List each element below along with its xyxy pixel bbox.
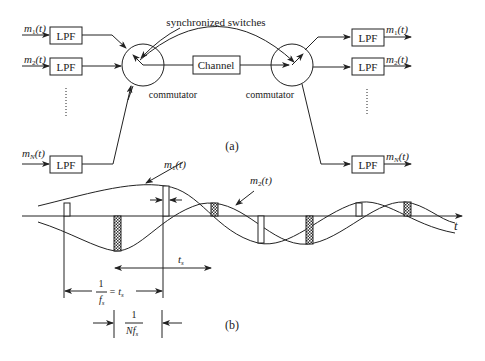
sample-m1-1 — [64, 203, 70, 216]
period-equals: = ts — [109, 286, 124, 299]
sample-m2-4 — [404, 202, 411, 216]
m1-label: m1(t) — [164, 158, 186, 172]
sync-label: synchronized switches — [166, 16, 265, 28]
channel-label: Channel — [198, 59, 235, 71]
sync-arc — [140, 26, 294, 62]
sample-m1-2 — [163, 186, 169, 216]
m2-label: m2(t) — [250, 174, 272, 188]
sample-m2-1 — [114, 216, 121, 251]
sample-m2-3 — [306, 216, 313, 244]
period-numerator: 1 — [99, 278, 104, 289]
input-lpf-2-label: LPF — [57, 61, 76, 73]
t-axis-label: t — [454, 218, 458, 233]
commutator-to-lpfn — [302, 84, 350, 164]
sample-m1-4 — [356, 203, 362, 216]
right-commutator-label: commutator — [246, 89, 295, 100]
input-label-2: m2(t) — [24, 53, 46, 67]
m2-pointer — [236, 191, 254, 205]
input-label-1: m1(t) — [24, 22, 46, 36]
output-lpf-n-label: LPF — [359, 159, 378, 171]
output-label-1: m1(t) — [386, 23, 408, 37]
part-a-label: (a) — [225, 139, 238, 153]
slot-denominator: Nfs — [125, 325, 138, 338]
input-lpf-n-label: LPF — [57, 159, 76, 171]
curve-m1 — [38, 185, 455, 244]
output-label-n: mN(t) — [386, 150, 409, 164]
tdm-diagram: m1(t) m2(t) mN(t) LPF LPF LPF synchroniz… — [0, 0, 485, 361]
sample-m2-2 — [211, 203, 218, 216]
lpf1-to-commutator — [82, 35, 126, 48]
left-switch-arm — [133, 55, 143, 65]
output-lpf-2-label: LPF — [359, 61, 378, 73]
ts-label: ts — [178, 253, 184, 267]
sample-m1-3 — [258, 216, 264, 243]
period-denominator: fs — [99, 294, 105, 307]
input-lpf-1-label: LPF — [57, 30, 76, 42]
input-label-n: mN(t) — [22, 147, 45, 161]
left-commutator-label: commutator — [149, 89, 198, 100]
lpfn-to-commutator — [82, 86, 131, 164]
commutator-to-lpf1 — [305, 37, 350, 50]
slot-numerator: 1 — [132, 309, 137, 320]
part-b-label: (b) — [225, 318, 239, 332]
right-switch-arm — [292, 54, 303, 65]
output-label-2: m2(t) — [386, 53, 408, 67]
output-lpf-1-label: LPF — [359, 32, 378, 44]
